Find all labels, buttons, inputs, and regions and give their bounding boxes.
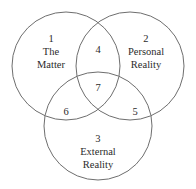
region-label-5: 5 [132, 106, 137, 118]
set-label-the-matter: 1 The Matter [37, 33, 65, 71]
region-label-6: 6 [63, 106, 68, 118]
region-label-4: 4 [95, 44, 100, 56]
set-label-external-reality: 3 External Reality [80, 133, 116, 171]
region-label-7: 7 [95, 82, 100, 94]
set-name-personal-reality-line-1: Personal [128, 46, 164, 58]
set-name-the-matter-line-1: The [37, 46, 65, 58]
set-name-external-reality-line-1: External [80, 146, 116, 158]
circle-the-matter [12, 12, 120, 120]
set-name-external-reality-line-2: Reality [80, 159, 116, 171]
set-number-1: 1 [37, 33, 65, 45]
set-label-personal-reality: 2 Personal Reality [128, 33, 164, 71]
set-name-the-matter-line-2: Matter [37, 59, 65, 71]
set-name-personal-reality-line-2: Reality [128, 59, 164, 71]
venn-diagram: 1 The Matter 2 Personal Reality 3 Extern… [0, 0, 196, 189]
set-number-2: 2 [128, 33, 164, 45]
set-number-3: 3 [80, 133, 116, 145]
